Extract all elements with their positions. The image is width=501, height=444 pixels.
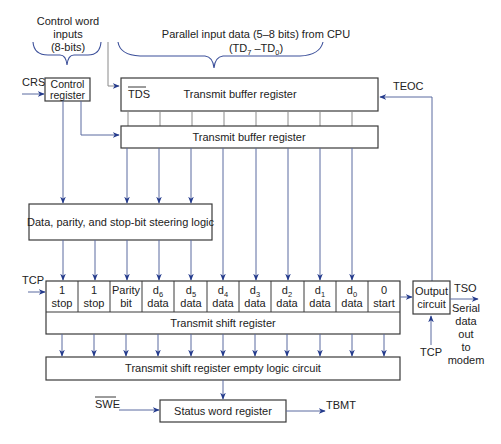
svg-text:(8-bits): (8-bits) [51,41,85,53]
output-circuit: Output circuit [413,281,450,314]
svg-text:data: data [180,297,202,309]
svg-text:modem: modem [448,354,485,366]
parallel-input-label: Parallel input data (5–8 bits) from CPU … [162,28,350,57]
teoc-label: TEOC [393,80,424,92]
tbmt-label: TBMT [326,399,356,411]
svg-text:stop: stop [84,297,105,309]
svg-text:Output: Output [415,285,448,297]
status-word-register: Status word register [160,400,286,422]
svg-text:Parity: Parity [112,284,141,296]
svg-text:0: 0 [381,284,387,296]
shift-to-empty-logic-arrows [62,334,384,356]
svg-text:data: data [276,297,298,309]
svg-text:data: data [455,315,477,327]
transmit-buffer-register-tds: TDS Transmit buffer register [121,78,378,111]
svg-text:to: to [461,341,470,353]
svg-text:1: 1 [91,284,97,296]
svg-text:Transmit shift register: Transmit shift register [170,317,276,329]
svg-text:Serial: Serial [452,302,480,314]
svg-text:Transmit shift register empty: Transmit shift register empty logic circ… [125,362,321,374]
tds-label: TDS [128,88,150,100]
teoc-feedback-line [380,97,432,281]
svg-text:Status word register: Status word register [174,405,272,417]
svg-text:data: data [147,297,169,309]
tso-label: TSO [454,282,477,294]
tcp-bottom-label: TCP [420,346,442,358]
svg-text:bit: bit [120,297,132,309]
svg-text:Transmit buffer register: Transmit buffer register [183,88,296,100]
svg-text:data: data [341,297,363,309]
parallel-input-range: (TD7 –TD0) [229,42,283,57]
control-word-label: Control word inputs (8-bits) [37,15,99,53]
tcp-left-label: TCP [22,274,44,286]
uart-transmitter-diagram: Control word inputs (8-bits) Parallel in… [0,0,501,444]
swe-label: SWE [95,398,120,410]
svg-text:out: out [458,328,473,340]
serial-out-label: Serial data out to modem [448,302,485,366]
empty-logic-circuit: Transmit shift register empty logic circ… [46,357,400,380]
svg-text:circuit: circuit [417,298,446,310]
crs-label: CRS [22,76,45,88]
svg-text:data: data [212,297,234,309]
buffer-interconnects [128,111,352,126]
svg-text:register: register [50,89,86,101]
steering-logic-block: Data, parity, and stop-bit steering logi… [27,204,214,240]
svg-text:Parallel input data (5–8 bits): Parallel input data (5–8 bits) from CPU [162,28,350,40]
svg-text:data: data [309,297,331,309]
parallel-input-brace [118,42,323,68]
control-word-to-tds-line [108,42,119,86]
svg-text:stop: stop [52,297,73,309]
svg-text:start: start [373,297,394,309]
transmit-buffer-register-2: Transmit buffer register [121,126,378,148]
svg-text:Control word: Control word [37,15,99,27]
svg-text:Transmit buffer register: Transmit buffer register [192,131,305,143]
svg-text:1: 1 [59,284,65,296]
control-register: Control register [45,78,90,101]
svg-text:inputs: inputs [53,28,83,40]
svg-text:Data, parity, and stop-bit ste: Data, parity, and stop-bit steering logi… [27,216,214,228]
control-to-buffer2-arrow [81,101,119,135]
svg-text:data: data [244,297,266,309]
